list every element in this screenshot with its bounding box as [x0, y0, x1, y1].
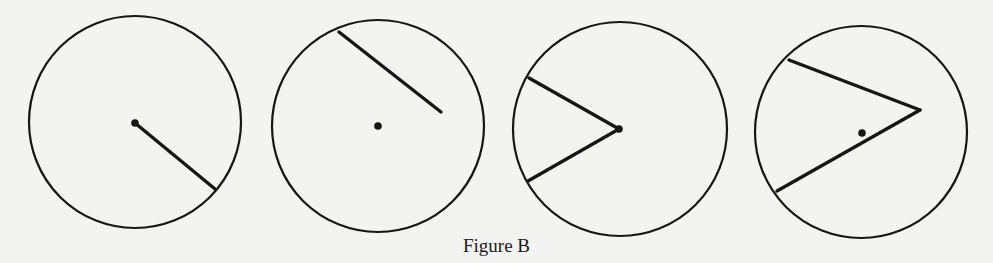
line-segment [528, 129, 619, 181]
figure-caption: Figure B [0, 235, 993, 257]
center-dot [615, 125, 623, 133]
circle-4-panel [755, 26, 967, 238]
center-dot [374, 122, 382, 130]
center-dot [858, 129, 866, 137]
line-segment [789, 60, 920, 110]
line-segment [135, 123, 215, 189]
circle-2-panel [272, 20, 484, 232]
center-dot [131, 119, 139, 127]
circle-1-panel [29, 16, 241, 228]
line-segment [777, 110, 920, 191]
line-segment [529, 78, 619, 129]
circle-3-panel [513, 22, 727, 236]
figure-b-diagram [0, 0, 993, 263]
line-segment [339, 32, 441, 112]
